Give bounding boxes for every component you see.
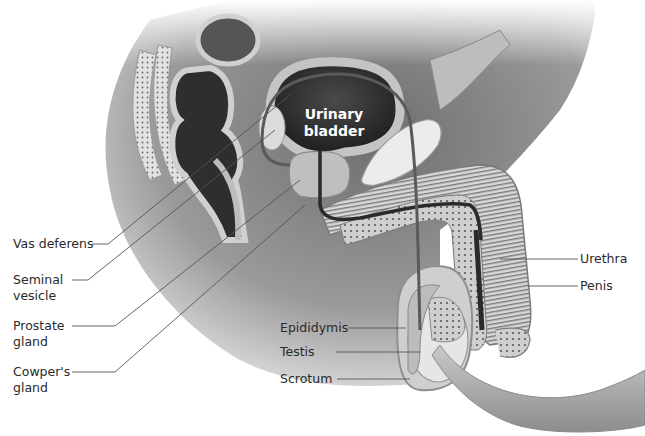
label-scrotum-text: Scrotum (280, 371, 332, 386)
label-urethra: Urethra (580, 251, 627, 267)
label-vas-deferens: Vas deferens (13, 236, 93, 252)
label-vas-deferens-text: Vas deferens (13, 236, 93, 251)
label-seminal-vesicle: Seminal vesicle (13, 272, 83, 304)
urinary-bladder-label-line1: Urinary (294, 106, 374, 123)
urinary-bladder-label-line2: bladder (294, 123, 374, 140)
label-seminal-vesicle-line2: vesicle (13, 288, 83, 304)
label-prostate-gland-line2: gland (13, 334, 83, 350)
label-testis: Testis (280, 344, 315, 360)
label-urethra-text: Urethra (580, 251, 627, 266)
label-cowpers-gland-line2: gland (13, 380, 83, 396)
label-prostate-gland: Prostate gland (13, 318, 83, 350)
label-scrotum: Scrotum (280, 371, 332, 387)
label-seminal-vesicle-line1: Seminal (13, 272, 83, 288)
label-penis-text: Penis (580, 278, 613, 293)
label-epididymis-text: Epididymis (280, 320, 348, 335)
label-prostate-gland-line1: Prostate (13, 318, 83, 334)
urinary-bladder-label: Urinary bladder (294, 106, 374, 140)
label-cowpers-gland-line1: Cowper's (13, 364, 83, 380)
label-cowpers-gland: Cowper's gland (13, 364, 83, 396)
label-penis: Penis (580, 278, 613, 294)
label-epididymis: Epididymis (280, 320, 348, 336)
label-testis-text: Testis (280, 344, 315, 359)
